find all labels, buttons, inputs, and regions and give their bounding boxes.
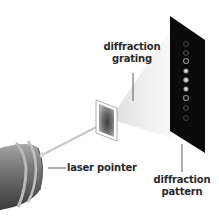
- diagram-stage: diffraction grating laser pointer diffra…: [0, 0, 219, 222]
- grating-label: diffraction grating: [102, 41, 162, 65]
- pattern-label-line1: diffraction: [150, 174, 214, 186]
- pattern-label: diffraction pattern: [150, 174, 214, 198]
- pattern-label-line2: pattern: [150, 186, 214, 198]
- laser-label: laser pointer: [67, 162, 137, 174]
- diffraction-pattern-screen: [170, 16, 205, 153]
- laser-pointer: [0, 141, 44, 210]
- diffraction-grating: [96, 100, 117, 141]
- grating-label-line1: diffraction: [102, 41, 162, 53]
- grating-label-line2: grating: [102, 53, 162, 65]
